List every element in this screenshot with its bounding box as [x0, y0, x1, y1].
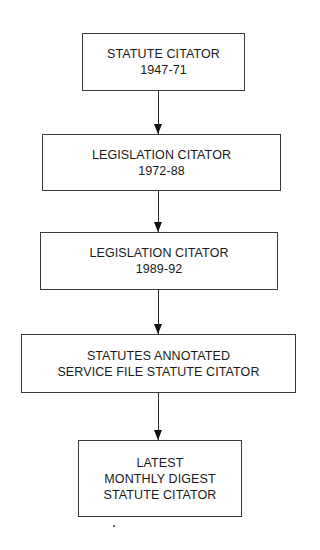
- node-latest-monthly-digest: LATEST MONTHLY DIGEST STATUTE CITATOR: [78, 440, 242, 517]
- node-legislation-citator-1989-92: LEGISLATION CITATOR 1989-92: [40, 232, 278, 290]
- arrow-n2-to-n3: [158, 191, 159, 232]
- node-title: STATUTE CITATOR: [107, 46, 220, 62]
- node-title: LEGISLATION CITATOR: [89, 245, 228, 261]
- arrow-n3-to-n4: [158, 290, 159, 334]
- node-statutes-annotated-service-file: STATUTES ANNOTATED SERVICE FILE STATUTE …: [21, 334, 296, 393]
- node-line-1: LATEST: [137, 455, 184, 471]
- node-title: LEGISLATION CITATOR: [92, 147, 231, 163]
- arrow-n1-to-n2: [158, 91, 159, 134]
- node-years: 1947-71: [140, 62, 187, 78]
- node-subtitle: SERVICE FILE STATUTE CITATOR: [57, 364, 259, 380]
- node-years: 1989-92: [136, 261, 183, 277]
- arrowhead-icon: [154, 324, 162, 334]
- arrowhead-icon: [154, 222, 162, 232]
- node-title: STATUTES ANNOTATED: [87, 348, 230, 364]
- arrow-n4-to-n5: [158, 393, 159, 440]
- arrowhead-icon: [154, 430, 162, 440]
- node-statute-citator-1947-71: STATUTE CITATOR 1947-71: [82, 33, 245, 91]
- node-line-2: MONTHLY DIGEST: [104, 471, 215, 487]
- node-years: 1972-88: [138, 163, 185, 179]
- node-line-3: STATUTE CITATOR: [104, 487, 217, 503]
- node-legislation-citator-1972-88: LEGISLATION CITATOR 1972-88: [42, 134, 281, 191]
- arrowhead-icon: [154, 124, 162, 134]
- stray-dot: [113, 525, 115, 527]
